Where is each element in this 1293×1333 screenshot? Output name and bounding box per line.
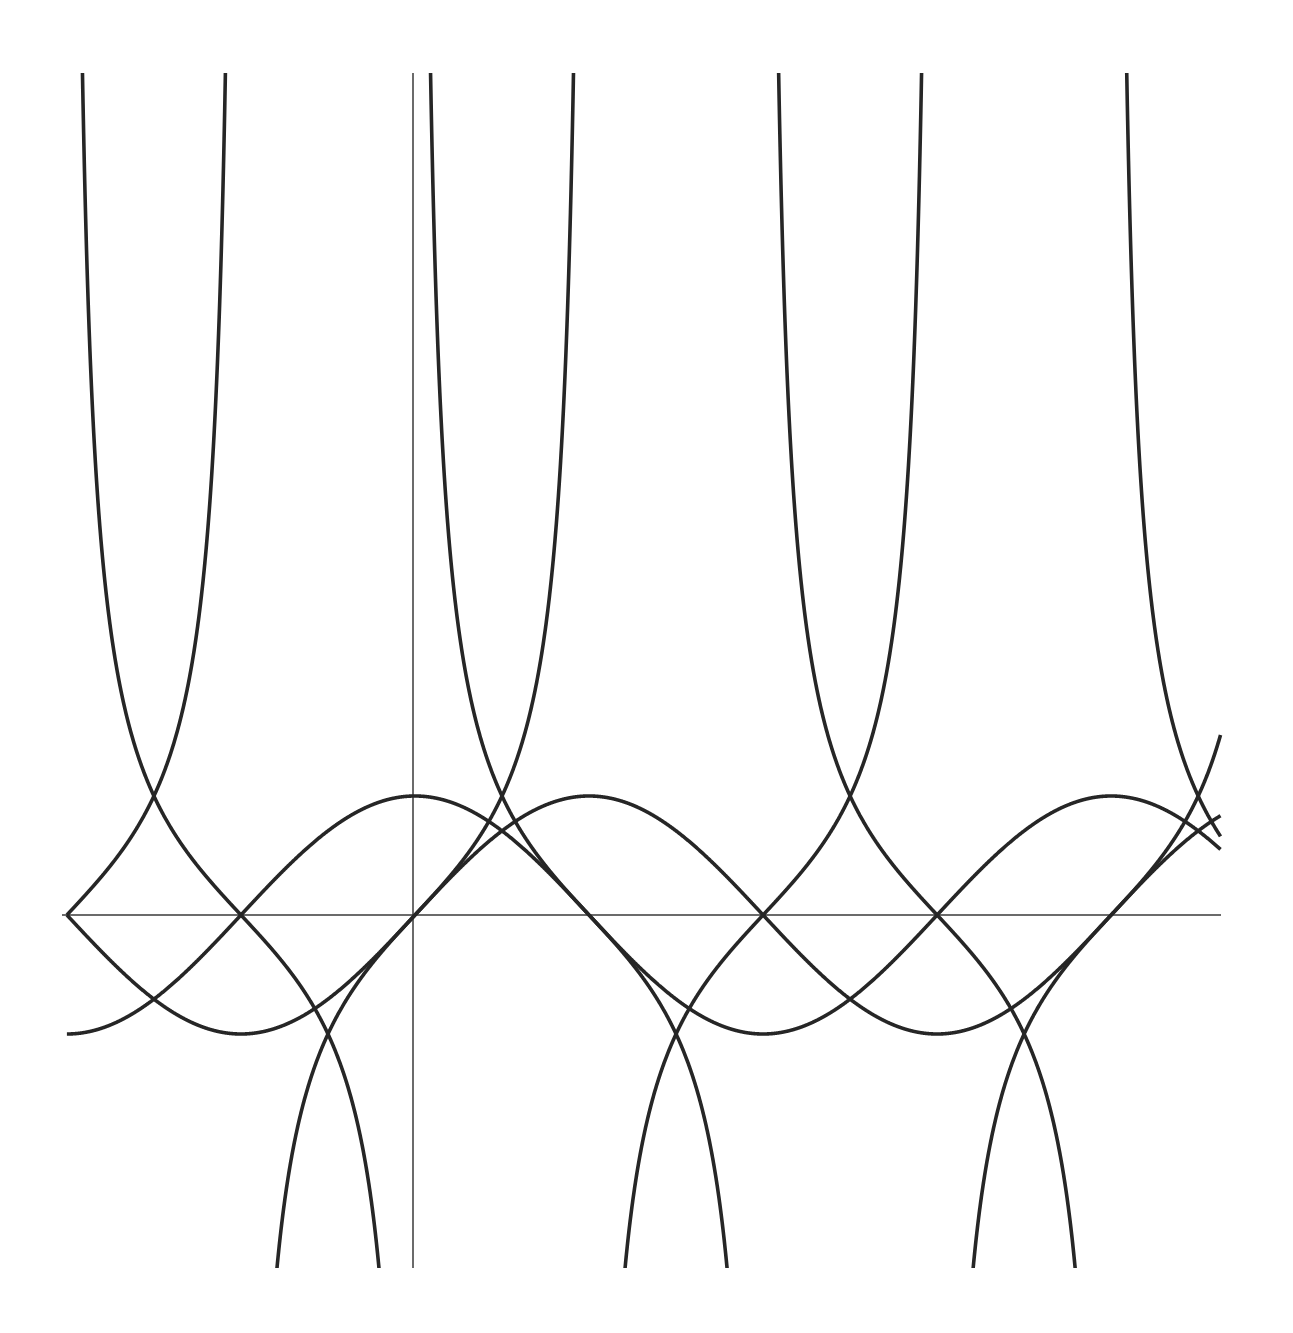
trig-function-plot (0, 0, 1293, 1333)
tangent-curve (67, 14, 1221, 1325)
cotangent-curve (82, 24, 1221, 1328)
